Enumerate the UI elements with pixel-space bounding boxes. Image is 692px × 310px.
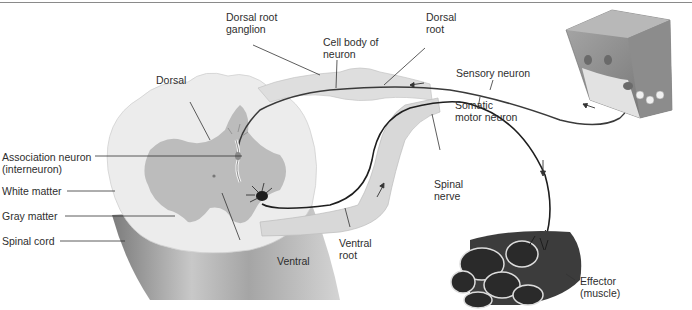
label-dorsal: Dorsal: [156, 74, 186, 86]
label-sensory-neuron: Sensory neuron: [456, 67, 530, 79]
label-dorsal-root: Dorsal root: [426, 11, 456, 35]
skin-receptor-block: [566, 10, 672, 118]
label-ventral: Ventral: [277, 255, 310, 267]
label-spinal-nerve: Spinal nerve: [434, 178, 463, 202]
label-dorsal-root-ganglion: Dorsal root ganglion: [226, 11, 277, 35]
label-ventral-root: Ventral root: [339, 237, 372, 261]
dorsal-root-nerve: [258, 68, 432, 102]
label-gray-matter: Gray matter: [2, 210, 57, 222]
label-white-matter: White matter: [2, 185, 62, 197]
label-effector-muscle: Effector (muscle): [580, 275, 620, 299]
label-cell-body-of-neuron: Cell body of neuron: [323, 36, 378, 60]
muscle-effector: [451, 231, 581, 308]
label-somatic-motor-neuron: Somatic motor neuron: [455, 99, 517, 123]
label-spinal-cord: Spinal cord: [2, 235, 55, 247]
label-association-neuron: Association neuron (interneuron): [2, 151, 91, 175]
